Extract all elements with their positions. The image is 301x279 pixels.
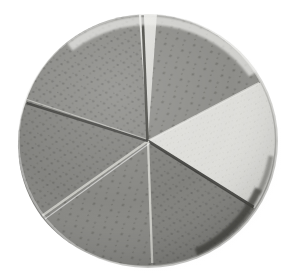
image-canvas: A round speckled disc sliced into six we… [0, 0, 301, 279]
disc-shading-overlay [20, 16, 276, 266]
sliced-disc-illustration [0, 0, 301, 279]
